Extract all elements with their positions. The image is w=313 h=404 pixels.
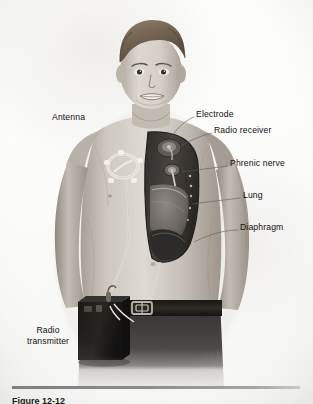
label-radio-transmitter-line1: Radio <box>36 325 59 335</box>
label-diaphragm: Diaphragm <box>240 222 283 233</box>
label-phrenic-nerve: Phrenic nerve <box>230 158 285 169</box>
label-electrode: Electrode <box>196 109 234 120</box>
figure-caption: Figure 12-12 <box>12 396 65 404</box>
artist-signature: illustrator <box>213 338 217 356</box>
label-radio-receiver: Radio receiver <box>214 125 272 136</box>
label-lung: Lung <box>243 190 263 201</box>
label-radio-transmitter: Radio transmitter <box>12 325 84 346</box>
figure-divider-rule <box>12 386 300 389</box>
label-antenna: Antenna <box>52 112 85 123</box>
label-radio-transmitter-line2: transmitter <box>27 336 69 346</box>
figure-illustration: Antenna Electrode Radio receiver Phrenic… <box>0 0 313 404</box>
